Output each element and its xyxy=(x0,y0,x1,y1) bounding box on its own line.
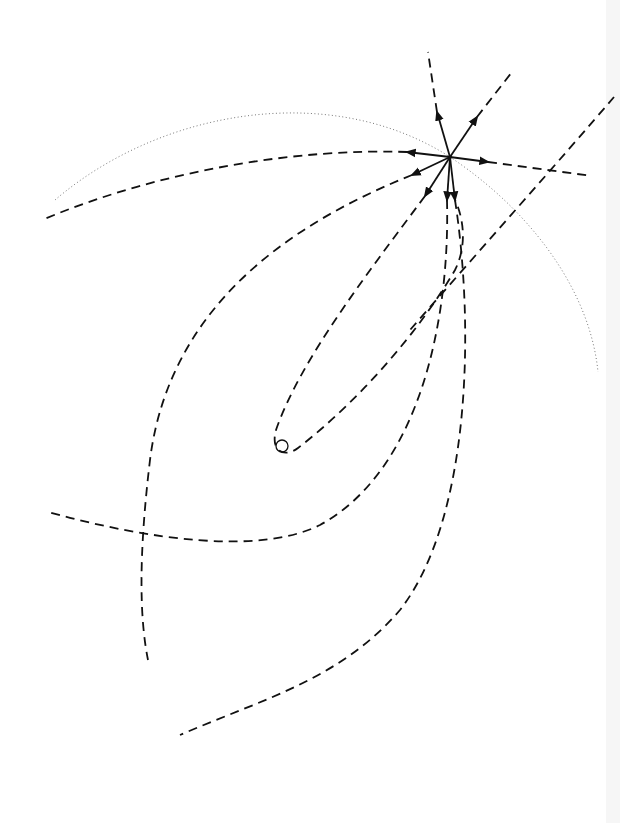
trajectory-diagonal xyxy=(410,97,614,330)
trajectory-up-right xyxy=(477,72,512,117)
trajectory-up xyxy=(428,52,437,112)
vector-down-2 xyxy=(450,157,455,200)
origin-point xyxy=(448,155,452,159)
trajectory-upper-left xyxy=(42,152,407,220)
vectors-layer xyxy=(407,112,488,200)
trajectory-diagram xyxy=(0,0,620,823)
trajectory-right-long xyxy=(180,200,465,735)
vector-down-1 xyxy=(447,157,450,200)
target-circle-icon xyxy=(276,440,288,452)
vector-up xyxy=(437,112,450,157)
vector-left xyxy=(407,152,450,157)
trajectory-lower-loop xyxy=(48,200,447,541)
trajectory-inner-loop xyxy=(275,196,463,453)
trajectories-layer xyxy=(42,52,614,735)
trajectory-right xyxy=(488,162,592,176)
trajectory-left-loop xyxy=(142,175,413,660)
vector-up-right xyxy=(450,117,477,157)
